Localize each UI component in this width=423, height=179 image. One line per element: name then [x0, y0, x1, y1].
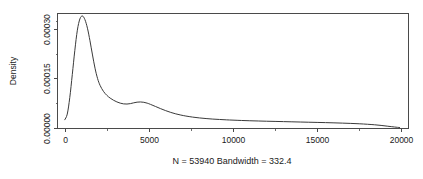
x-axis-caption: N = 53940 Bandwidth = 332.4: [172, 156, 291, 166]
x-axis-tick-labels: 05000100001500020000: [63, 135, 413, 145]
x-tick-label-1: 5000: [140, 135, 159, 145]
x-tick-label-3: 15000: [306, 135, 330, 145]
y-tick-label-1: 0.00015: [42, 63, 52, 94]
y-tick-label-0: 0.00000: [42, 113, 52, 144]
x-tick-label-4: 20000: [390, 135, 414, 145]
x-tick-label-2: 10000: [222, 135, 246, 145]
density-plot-figure: 05000100001500020000 0.000000.000150.000…: [0, 0, 423, 179]
x-tick-label-0: 0: [63, 135, 68, 145]
plot-frame: [58, 14, 409, 129]
y-tick-label-2: 0.00030: [42, 14, 52, 45]
density-plot-svg: 05000100001500020000 0.000000.000150.000…: [0, 0, 423, 179]
density-curve-line: [65, 16, 400, 128]
y-axis-title: Density: [8, 56, 18, 85]
y-axis-tick-labels: 0.000000.000150.00030: [42, 14, 52, 144]
